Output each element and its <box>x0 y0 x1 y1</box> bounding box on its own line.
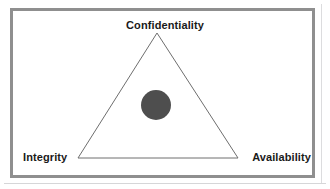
vertex-label-integrity: Integrity <box>23 151 67 164</box>
diagram-canvas: Confidentiality Integrity Availability <box>0 0 330 189</box>
vertex-label-availability: Availability <box>252 151 311 164</box>
vertex-label-confidentiality: Confidentiality <box>0 19 330 32</box>
center-dot <box>141 90 171 120</box>
